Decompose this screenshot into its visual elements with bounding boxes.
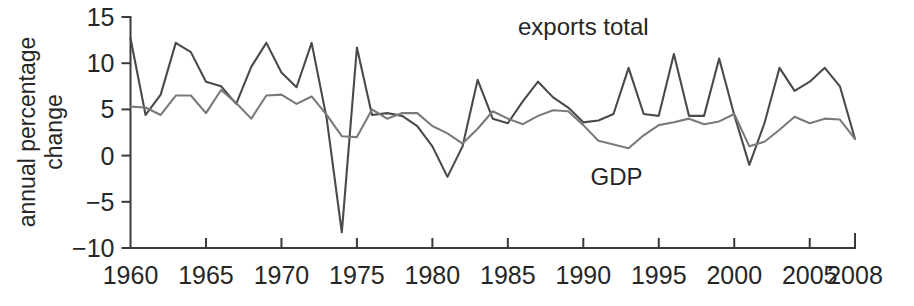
x-axis-ticks: 1960196519701975198019851990199520002005…: [103, 238, 883, 289]
x-tick-label: 1980: [405, 261, 461, 289]
x-tick-label: 1995: [631, 261, 687, 289]
chart-svg: −10−5051015 1960196519701975198019851990…: [0, 0, 914, 306]
y-tick-label: −10: [72, 234, 114, 262]
x-tick-label: 1975: [329, 261, 385, 289]
x-tick-label: 1990: [556, 261, 612, 289]
y-tick-label: 15: [87, 3, 115, 31]
y-axis-title-line2: change: [41, 94, 67, 169]
series-line-exports-total: [131, 38, 856, 232]
annotation-label: GDP: [591, 163, 643, 190]
x-tick-label: 1960: [103, 261, 159, 289]
series-annotations: exports totalGDP: [518, 13, 649, 190]
y-tick-label: 5: [101, 95, 115, 123]
y-tick-label: 0: [101, 142, 115, 170]
y-axis-title-line1: annual percentage: [14, 37, 40, 228]
x-tick-label: 2000: [706, 261, 762, 289]
annotation-label: exports total: [518, 13, 649, 40]
x-tick-label: 1970: [254, 261, 310, 289]
y-tick-label: 10: [87, 49, 115, 77]
x-tick-label: 1965: [178, 261, 234, 289]
axis-lines: [131, 17, 856, 248]
y-axis-ticks: −10−5051015: [72, 3, 130, 262]
chart-figure: −10−5051015 1960196519701975198019851990…: [0, 0, 914, 306]
x-tick-label: 2008: [827, 261, 883, 289]
y-tick-label: −5: [86, 188, 115, 216]
data-series-group: [131, 38, 856, 232]
x-tick-label: 1985: [480, 261, 536, 289]
